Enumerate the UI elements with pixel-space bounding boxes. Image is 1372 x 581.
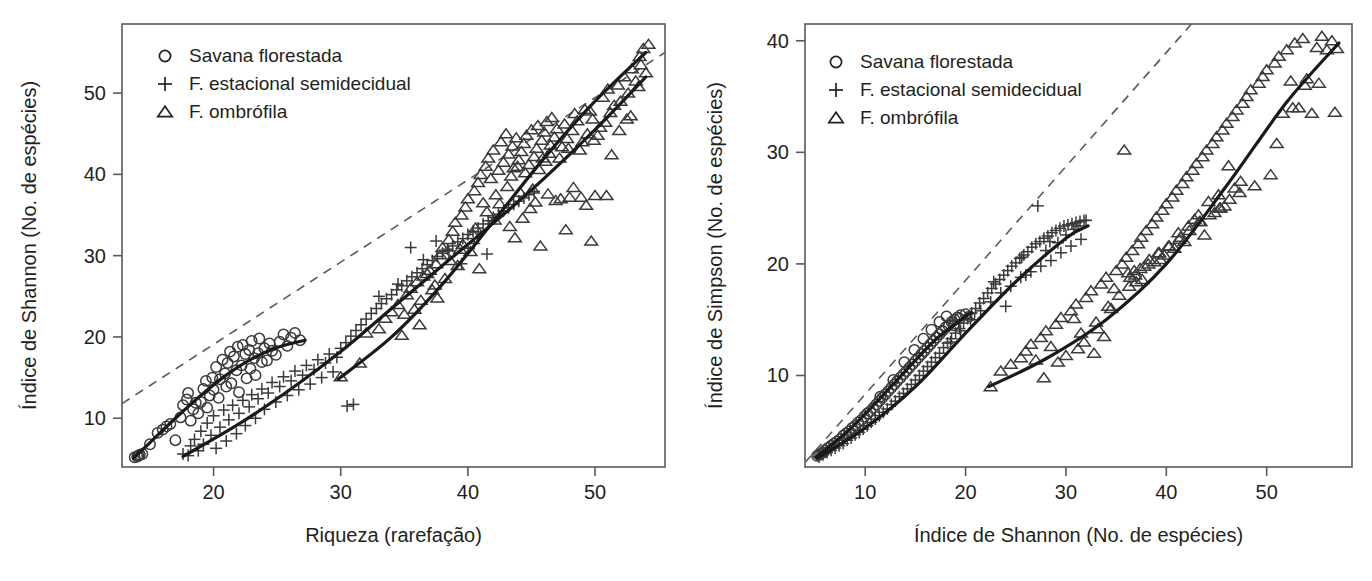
data-point-triangle bbox=[473, 264, 486, 273]
figure-root: 203040501020304050Riqueza (rarefação)Índ… bbox=[0, 0, 1372, 581]
y-tick-label: 40 bbox=[84, 163, 106, 185]
circle-icon bbox=[830, 56, 841, 67]
data-point-plus bbox=[233, 407, 245, 419]
data-point-plus bbox=[1016, 251, 1028, 263]
data-point-triangle bbox=[501, 182, 514, 191]
data-point-plus bbox=[201, 417, 213, 429]
legend-label: Savana florestada bbox=[189, 45, 343, 66]
data-point-triangle bbox=[1248, 181, 1261, 190]
series-plus bbox=[177, 185, 540, 461]
data-point-plus bbox=[373, 290, 385, 302]
data-point-triangle bbox=[1296, 34, 1309, 43]
chart-svg-right: 102030405010203040Índice de Shannon (No.… bbox=[686, 0, 1372, 581]
data-point-triangle bbox=[1315, 31, 1328, 40]
data-point-plus bbox=[223, 414, 235, 426]
x-tick-label: 40 bbox=[457, 481, 479, 503]
data-point-triangle bbox=[1310, 42, 1323, 51]
data-point-plus bbox=[1032, 200, 1044, 212]
y-tick-label: 30 bbox=[84, 245, 106, 267]
data-point-triangle bbox=[481, 207, 494, 216]
data-point-triangle bbox=[1284, 76, 1297, 85]
data-point-triangle bbox=[1305, 108, 1318, 117]
data-point-triangle bbox=[1264, 170, 1277, 179]
x-tick-label: 20 bbox=[954, 481, 976, 503]
data-point-triangle bbox=[567, 182, 580, 191]
legend-label: Savana florestada bbox=[860, 51, 1014, 72]
data-point-triangle bbox=[1037, 373, 1050, 382]
data-point-plus bbox=[1045, 255, 1057, 267]
data-point-triangle bbox=[1312, 78, 1325, 87]
data-point-plus bbox=[1080, 214, 1092, 226]
data-point-triangle bbox=[1252, 78, 1265, 87]
legend-label: F. ombrófila bbox=[189, 101, 288, 122]
data-point-plus bbox=[347, 398, 359, 410]
data-point-triangle bbox=[500, 129, 513, 138]
data-point-plus bbox=[1065, 240, 1077, 252]
y-axis-title: Índice de Shannon (No. de espécies) bbox=[18, 81, 40, 410]
data-point-plus bbox=[316, 372, 328, 384]
legend-label: F. ombrófila bbox=[860, 107, 959, 128]
x-tick-label: 50 bbox=[584, 481, 606, 503]
data-point-triangle bbox=[585, 236, 598, 245]
data-point-triangle bbox=[1270, 138, 1283, 147]
chart-panel-right: 102030405010203040Índice de Shannon (No.… bbox=[686, 0, 1372, 581]
chart-panel-left: 203040501020304050Riqueza (rarefação)Índ… bbox=[0, 0, 686, 581]
data-point-triangle bbox=[1088, 348, 1101, 357]
y-tick-label: 10 bbox=[767, 364, 789, 386]
data-point-triangle bbox=[1198, 230, 1211, 239]
circle-icon bbox=[159, 50, 170, 61]
x-axis-title: Riqueza (rarefação) bbox=[305, 524, 482, 546]
x-tick-label: 30 bbox=[1055, 481, 1077, 503]
data-point-plus bbox=[210, 442, 222, 454]
data-point-triangle bbox=[509, 233, 522, 242]
y-axis-title: Índice de Simpson (No. de espécies) bbox=[704, 82, 726, 409]
data-point-plus bbox=[1075, 233, 1087, 245]
data-point-plus bbox=[405, 242, 417, 254]
data-point-triangle bbox=[600, 191, 613, 200]
data-point-triangle bbox=[1222, 161, 1235, 170]
data-point-plus bbox=[988, 276, 1000, 288]
data-point-plus bbox=[243, 401, 255, 413]
x-tick-label: 30 bbox=[330, 481, 352, 503]
data-point-plus bbox=[220, 435, 232, 447]
data-point-triangle bbox=[1052, 357, 1065, 366]
data-point-plus bbox=[1000, 300, 1012, 312]
data-point-plus bbox=[481, 248, 493, 260]
data-point-triangle bbox=[575, 192, 588, 201]
legend-label: F. estacional semidecidual bbox=[189, 73, 411, 94]
data-point-triangle bbox=[1280, 45, 1293, 54]
data-point-circle bbox=[934, 317, 944, 327]
data-point-plus bbox=[360, 313, 372, 325]
data-point-triangle bbox=[558, 119, 571, 128]
x-tick-label: 10 bbox=[854, 481, 876, 503]
y-tick-label: 20 bbox=[767, 253, 789, 275]
data-point-triangle bbox=[559, 225, 572, 234]
data-point-circle bbox=[183, 388, 193, 398]
data-point-triangle bbox=[1060, 350, 1073, 359]
data-point-circle bbox=[918, 333, 928, 343]
data-point-triangle bbox=[477, 198, 490, 207]
triangle-icon bbox=[158, 106, 172, 116]
chart-svg-left: 203040501020304050Riqueza (rarefação)Índ… bbox=[0, 0, 686, 581]
x-axis-title: Índice de Shannon (No. de espécies) bbox=[914, 524, 1243, 546]
data-point-triangle bbox=[503, 221, 516, 230]
y-tick-label: 50 bbox=[84, 82, 106, 104]
x-tick-label: 40 bbox=[1155, 481, 1177, 503]
data-point-triangle bbox=[516, 213, 529, 222]
data-point-triangle bbox=[446, 226, 459, 235]
data-point-triangle bbox=[1268, 58, 1281, 67]
triangle-icon bbox=[829, 112, 843, 122]
data-point-triangle bbox=[605, 150, 618, 159]
data-point-circle bbox=[202, 402, 212, 412]
x-tick-label: 20 bbox=[202, 481, 224, 503]
legend-label: F. estacional semidecidual bbox=[860, 79, 1082, 100]
data-point-triangle bbox=[589, 191, 602, 200]
data-point-circle bbox=[170, 435, 180, 445]
data-point-triangle bbox=[413, 320, 426, 329]
data-point-plus bbox=[1055, 247, 1067, 259]
y-tick-label: 20 bbox=[84, 326, 106, 348]
y-tick-label: 10 bbox=[84, 407, 106, 429]
data-point-triangle bbox=[613, 126, 626, 135]
data-point-circle bbox=[926, 325, 936, 335]
legend: Savana florestadaF. estacional semidecid… bbox=[829, 51, 1082, 128]
